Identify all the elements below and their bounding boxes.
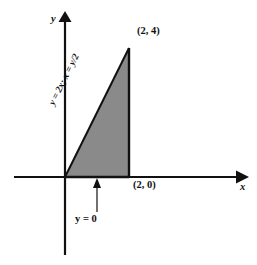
callout-arrow-head [93,178,101,188]
vertex-label-2-0: (2, 0) [133,180,156,191]
y-axis-label: y [51,14,56,25]
y-axis-arrowhead [59,11,72,22]
x-axis-label: x [240,182,245,193]
vertex-label-2-4: (2, 4) [137,26,160,37]
math-figure [0,0,257,265]
baseline-label-y-equals-0: y = 0 [75,214,97,225]
